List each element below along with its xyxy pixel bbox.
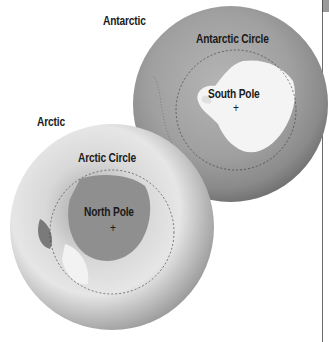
arctic-title: Arctic [37, 115, 65, 129]
antarctic-circle-label: Antarctic Circle [196, 32, 269, 46]
page-edge-line [322, 0, 323, 342]
antarctic-title: Antarctic [103, 14, 146, 28]
north-pole-label: North Pole [84, 205, 134, 219]
north-pole-marker: + [110, 221, 116, 235]
page-edge-tab [322, 0, 329, 12]
south-pole-label: South Pole [208, 87, 260, 101]
arctic-circle-label: Arctic Circle [78, 151, 136, 165]
south-pole-marker: + [233, 101, 239, 115]
